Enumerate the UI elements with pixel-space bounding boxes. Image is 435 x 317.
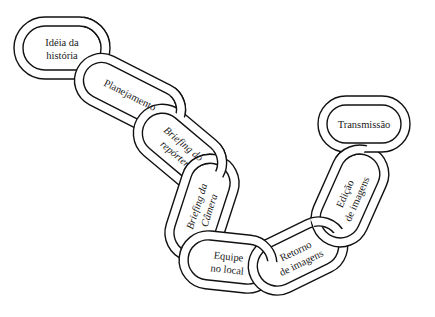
- link-label-line1: Idéia da: [45, 37, 79, 48]
- link-label-line1: Transmissão: [338, 119, 391, 130]
- chain-diagram: Idéia dahistóriaPlanejamentoBriefing dor…: [0, 0, 435, 317]
- link-label-8: Transmissão: [338, 119, 391, 130]
- link-label-line2: história: [46, 50, 78, 61]
